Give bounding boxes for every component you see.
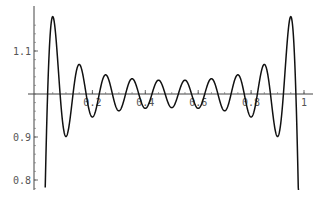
x-tick-label: 0.6 [189, 97, 207, 108]
line-chart: 1.10.90.8 0.20.40.60.81 [0, 0, 317, 197]
y-tick-label: 0.9 [13, 132, 31, 143]
x-tick-label: 0.4 [136, 97, 154, 108]
x-axis-ticks: 0.20.40.60.81 [53, 90, 307, 108]
y-tick-label: 1.1 [13, 46, 31, 57]
x-tick-label: 1 [301, 97, 307, 108]
y-tick-label: 0.8 [13, 175, 31, 186]
